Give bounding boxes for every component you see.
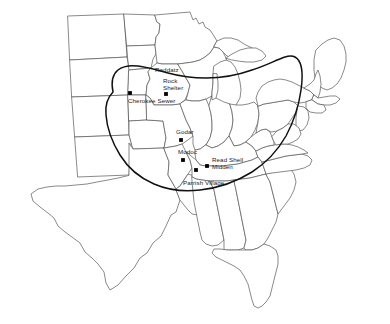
site-label-line: Rock: [163, 77, 183, 84]
site-marker: [179, 138, 183, 142]
site-label: Cherokee Sewer: [128, 97, 176, 104]
site-label-line: Modoc: [178, 148, 197, 155]
state-colorado: [72, 95, 129, 137]
site-marker: [205, 164, 209, 168]
site-marker: [194, 168, 198, 172]
archaeological-site-map: RaddatzRockShelterCherokee SewerGodarMod…: [0, 0, 390, 324]
state-florida: [212, 244, 278, 308]
site-marker: [128, 91, 132, 95]
state-wyoming: [70, 57, 129, 97]
site-label-line: Read Shell: [212, 156, 243, 163]
state-new-mexico: [75, 135, 131, 177]
site-marker: [164, 92, 168, 96]
site-label-line: Midden: [212, 163, 243, 170]
site-label-line: Shelter: [163, 84, 183, 91]
site-label-line: Parrish Village: [183, 179, 224, 186]
site-label-line: Raddatz: [155, 66, 179, 73]
state-north-dakota: [124, 14, 160, 46]
state-outlines: [31, 12, 346, 308]
site-label: Parrish Village: [183, 179, 224, 186]
site-marker: [181, 158, 185, 162]
site-label-line: Godar: [176, 128, 194, 135]
state-oklahoma: [129, 120, 166, 149]
site-label: Godar: [176, 128, 194, 135]
site-label-line: Cherokee Sewer: [128, 97, 176, 104]
site-label: Raddatz: [155, 66, 179, 73]
state-montana: [68, 14, 127, 60]
map-svg: [0, 0, 390, 324]
site-label: RockShelter: [163, 77, 183, 91]
site-label: Read ShellMidden: [212, 156, 243, 170]
site-label: Modoc: [178, 148, 197, 155]
